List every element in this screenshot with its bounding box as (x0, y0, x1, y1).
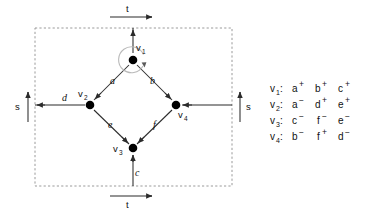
row-vertex-base: v (270, 131, 275, 142)
entry-letter: c (338, 83, 343, 94)
edge-c: c (133, 155, 140, 186)
edge-label-e: e (108, 119, 113, 130)
edge-label-d: d (62, 92, 68, 103)
boundary-marker-left: s (15, 92, 28, 122)
vertex-label-v2-base: v (78, 88, 83, 99)
entry-letter: c (292, 115, 297, 126)
vertex-label-v3: v 3 (113, 143, 123, 156)
entry-letter: f (317, 131, 320, 142)
edge-label-c: c (135, 167, 140, 178)
entry-sign: − (299, 127, 304, 137)
entry-sign: − (299, 95, 304, 105)
entry-letter: e (338, 99, 344, 110)
boundary-marker-bottom: t (110, 196, 152, 210)
table-row: v 2 : a − d + e + (270, 95, 350, 112)
vertex-label-v4-base: v (178, 109, 183, 120)
vertex-v1 (129, 56, 138, 65)
vertex-v4 (172, 101, 181, 110)
boundary-label-bottom: t (126, 199, 129, 210)
vertex-label-v3-sub: 3 (119, 149, 123, 156)
entry-sign: + (322, 95, 327, 105)
vertex-v2 (86, 101, 95, 110)
row-separator: : (280, 115, 283, 126)
entry-sign: − (322, 111, 327, 121)
edge-label-a: a (110, 75, 115, 86)
edge-label-b: b (150, 75, 155, 86)
entry-letter: d (315, 99, 321, 110)
edge-b: b (137, 65, 172, 100)
row-vertex-base: v (270, 115, 275, 126)
row-vertex-base: v (270, 83, 275, 94)
vertex-label-v2-sub: 2 (84, 94, 88, 101)
entry-sign: − (345, 111, 350, 121)
entry-letter: a (292, 99, 298, 110)
edge-f: f (137, 110, 172, 144)
boundary-marker-right: s (240, 92, 251, 122)
entry-letter: e (338, 115, 344, 126)
edge-e: e (94, 110, 129, 144)
vertex-v3 (129, 144, 138, 153)
entry-sign: + (322, 79, 327, 89)
entry-letter: f (317, 115, 320, 126)
vertex-label-v4: v 4 (178, 109, 188, 122)
vertex-label-v4-sub: 4 (184, 115, 188, 122)
rotation-table: v 1 : a + b + c + v 2 : a − d + e + (270, 79, 350, 144)
row-separator: : (280, 99, 283, 110)
table-row: v 1 : a + b + c + (270, 79, 350, 96)
entry-sign: − (299, 111, 304, 121)
vertex-label-v1: v 1 (136, 42, 146, 55)
entry-letter: b (292, 131, 298, 142)
vertex-label-v1-sub: 1 (142, 48, 146, 55)
boundary-marker-top: t (110, 3, 152, 17)
vertex-label-v3-base: v (113, 143, 118, 154)
figure-container: t t s s c (0, 0, 373, 213)
table-row: v 3 : c − f − e − (270, 111, 350, 128)
row-separator: : (280, 131, 283, 142)
table-row: v 4 : b − f + d − (270, 127, 350, 144)
boundary-label-right: s (246, 101, 251, 112)
vertex-label-v1-base: v (136, 42, 141, 53)
entry-sign: − (345, 127, 350, 137)
entry-letter: a (292, 83, 298, 94)
boundary-label-left: s (15, 101, 20, 112)
boundary-label-top: t (126, 3, 129, 14)
entry-letter: b (315, 83, 321, 94)
row-separator: : (280, 83, 283, 94)
entry-sign: + (345, 79, 350, 89)
graph-on-torus-diagram: t t s s c (0, 0, 373, 213)
vertex-label-v2: v 2 (78, 88, 88, 101)
entry-sign: + (322, 127, 327, 137)
row-vertex-base: v (270, 99, 275, 110)
entry-letter: d (338, 131, 344, 142)
entry-sign: + (345, 95, 350, 105)
entry-sign: + (299, 79, 304, 89)
